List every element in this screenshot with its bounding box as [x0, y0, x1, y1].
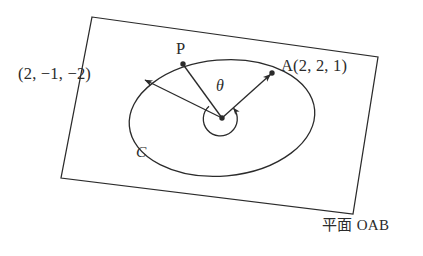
label-point-a: A(2, 2, 1)	[281, 58, 347, 75]
label-coordinate-left: (2, −1, −2)	[18, 66, 91, 83]
label-point-p: P	[176, 41, 185, 58]
point-dot-p	[180, 61, 185, 66]
label-angle-theta: θ	[216, 78, 224, 94]
label-curve-c: C	[136, 144, 146, 160]
point-dot-center	[219, 115, 224, 120]
point-dot-a	[269, 70, 274, 75]
vector-to-left-point	[145, 80, 222, 118]
diagram-canvas: (2, −1, −2) A(2, 2, 1) P θ C 平面 OAB	[0, 0, 423, 256]
vector-to-a	[222, 75, 271, 119]
label-plane-oab: 平面 OAB	[322, 218, 389, 233]
